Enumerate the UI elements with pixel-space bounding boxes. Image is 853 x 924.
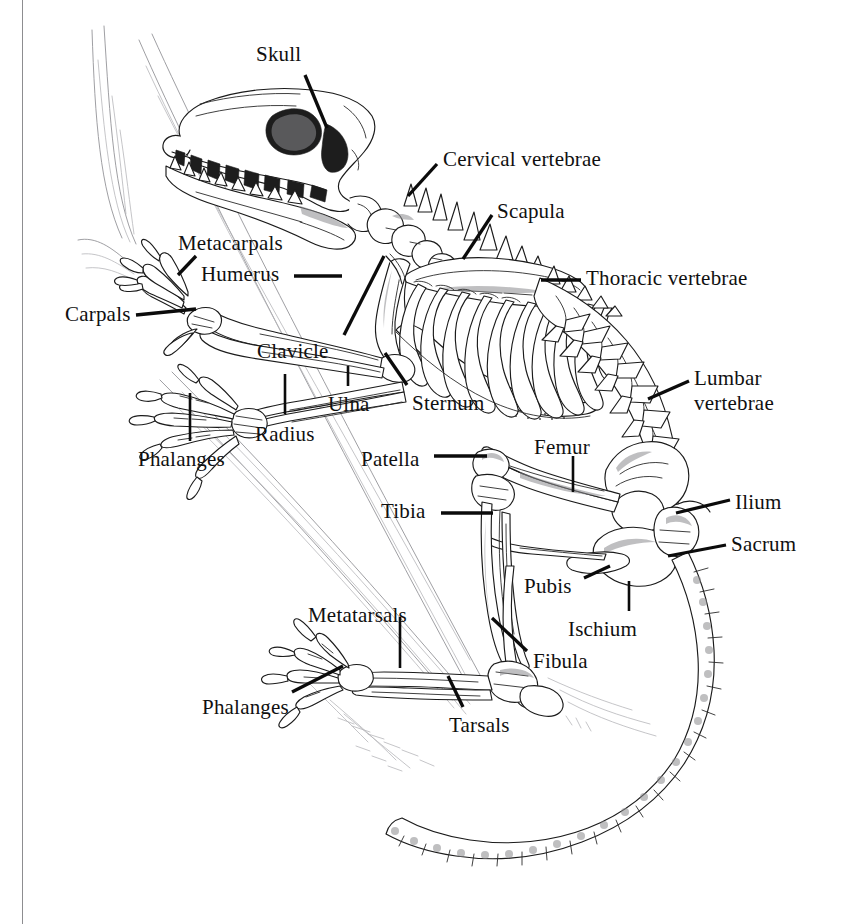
label-tibia: Tibia — [381, 500, 426, 523]
leader-cervical — [408, 164, 437, 196]
label-phalanges-fore: Phalanges — [138, 448, 225, 471]
skeleton-illustration — [0, 0, 853, 924]
figure-canvas: Skull Cervical vertebrae Scapula Thoraci… — [0, 0, 853, 924]
label-patella: Patella — [361, 448, 420, 471]
label-humerus: Humerus — [201, 263, 279, 286]
label-ischium: Ischium — [568, 618, 637, 641]
label-scapula: Scapula — [497, 200, 565, 223]
label-pubis: Pubis — [524, 575, 572, 598]
skull-group — [163, 89, 382, 250]
label-ulna: Ulna — [328, 393, 370, 416]
label-sacrum: Sacrum — [731, 533, 796, 556]
label-cervical-vertebrae: Cervical vertebrae — [443, 148, 601, 171]
label-thoracic-vertebrae: Thoracic vertebrae — [586, 267, 748, 290]
label-carpals: Carpals — [65, 303, 131, 326]
leader-metacarpals — [178, 256, 196, 275]
label-lumbar-vertebrae: Lumbar vertebrae — [694, 366, 774, 416]
label-clavicle: Clavicle — [257, 340, 329, 363]
label-metatarsals: Metatarsals — [308, 604, 407, 627]
label-skull: Skull — [256, 43, 301, 66]
leader-carpals — [136, 309, 196, 315]
label-radius: Radius — [255, 423, 315, 446]
label-phalanges-hind: Phalanges — [202, 696, 289, 719]
label-fibula: Fibula — [533, 650, 588, 673]
label-ilium: Ilium — [735, 491, 782, 514]
label-tarsals: Tarsals — [449, 714, 510, 737]
label-sternum: Sternum — [412, 392, 485, 415]
label-femur: Femur — [534, 436, 590, 459]
label-metacarpals: Metacarpals — [178, 232, 283, 255]
